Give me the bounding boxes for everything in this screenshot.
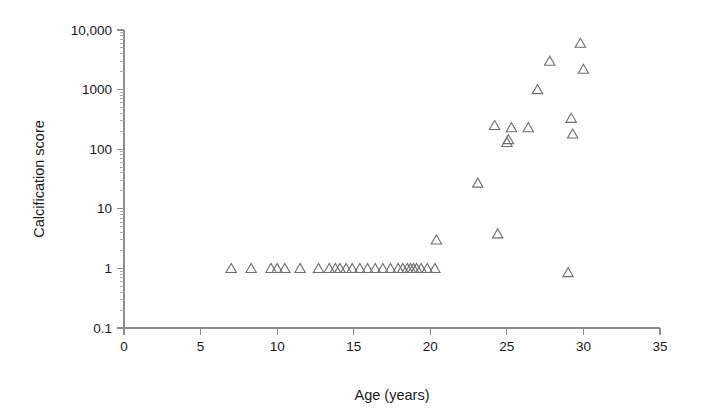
y-tick-label: 10,000 xyxy=(71,23,112,38)
data-markers-group xyxy=(226,38,589,276)
data-point-marker xyxy=(246,263,256,272)
data-point-marker xyxy=(506,123,516,132)
ticks-group xyxy=(117,30,660,335)
y-tick-label: 100 xyxy=(89,142,112,157)
y-tick-label: 10 xyxy=(97,201,112,216)
x-tick-label: 30 xyxy=(576,339,591,354)
data-point-marker xyxy=(226,263,236,272)
figure-container: 0.1110100100010,00005101520253035 Age (y… xyxy=(0,0,708,414)
x-tick-label: 35 xyxy=(652,339,667,354)
data-point-marker xyxy=(568,129,578,138)
data-point-marker xyxy=(431,235,441,244)
axis-lines xyxy=(124,30,660,328)
data-point-marker xyxy=(313,263,323,272)
scatter-plot: 0.1110100100010,00005101520253035 Age (y… xyxy=(0,0,708,414)
data-point-marker xyxy=(563,268,573,277)
data-point-marker xyxy=(545,56,555,65)
x-tick-label: 25 xyxy=(499,339,514,354)
x-tick-label: 5 xyxy=(197,339,205,354)
data-point-marker xyxy=(575,38,585,47)
y-tick-label: 1000 xyxy=(82,82,112,97)
y-tick-label: 1 xyxy=(104,261,112,276)
data-point-marker xyxy=(532,85,542,94)
data-point-marker xyxy=(566,113,576,122)
y-axis-title: Calcification score xyxy=(31,120,47,238)
x-tick-label: 10 xyxy=(270,339,285,354)
data-point-marker xyxy=(578,64,588,73)
data-point-marker xyxy=(295,263,305,272)
axes-group xyxy=(124,30,660,328)
x-tick-label: 15 xyxy=(346,339,361,354)
x-tick-label: 20 xyxy=(423,339,438,354)
x-tick-label: 0 xyxy=(120,339,128,354)
x-axis-title: Age (years) xyxy=(355,387,430,403)
y-tick-label: 0.1 xyxy=(93,321,112,336)
data-point-marker xyxy=(473,178,483,187)
data-point-marker xyxy=(492,229,502,238)
data-point-marker xyxy=(489,121,499,130)
tick-labels-group: 0.1110100100010,00005101520253035 xyxy=(71,23,668,354)
data-point-marker xyxy=(523,123,533,132)
